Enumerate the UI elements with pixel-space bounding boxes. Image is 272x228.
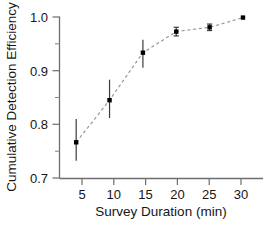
y-tick-label: 0.7 <box>30 171 48 186</box>
x-axis-title: Survey Duration (min) <box>95 204 226 219</box>
y-tick-label: 0.9 <box>30 64 48 79</box>
x-tick-label: 5 <box>78 187 85 202</box>
data-point-marker <box>141 50 145 54</box>
x-tick-label: 20 <box>170 187 184 202</box>
x-tick-label: 25 <box>202 187 216 202</box>
data-point-marker <box>241 15 245 19</box>
chart-figure: 1.0 0.9 0.8 0.7 5 10 15 20 25 30 <box>0 0 272 228</box>
data-point-marker <box>174 29 178 33</box>
y-axis-title: Cumulative Detection Efficiency <box>4 2 19 192</box>
x-tick-label: 15 <box>138 187 152 202</box>
data-point-marker <box>107 98 111 102</box>
chart-background <box>0 0 272 228</box>
cumulative-detection-efficiency-chart: 1.0 0.9 0.8 0.7 5 10 15 20 25 30 <box>0 0 272 228</box>
x-tick-label: 30 <box>234 187 248 202</box>
x-tick-label: 10 <box>107 187 121 202</box>
y-tick-label: 0.8 <box>30 117 48 132</box>
y-tick-label: 1.0 <box>30 10 48 25</box>
data-point-marker <box>207 25 211 29</box>
data-point-marker <box>74 140 78 144</box>
